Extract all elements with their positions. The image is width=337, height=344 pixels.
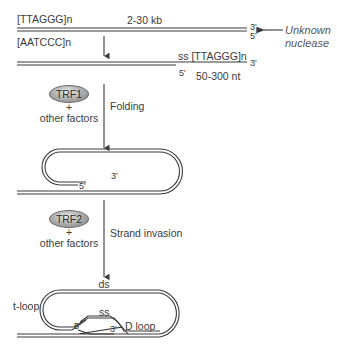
tloop-label: t-loop: [13, 300, 39, 312]
strand-invasion-label: Strand invasion: [110, 227, 182, 239]
ds-label: ds: [98, 278, 109, 290]
tloop-end-3: 3': [110, 323, 117, 335]
trf1-cofactors: other factors: [40, 112, 98, 124]
overhang-end-3: 3': [250, 57, 257, 69]
diagram-canvas: [0, 0, 337, 344]
dloop-label: D loop: [125, 320, 155, 332]
end-5-label: 5': [250, 30, 257, 42]
top-strand-label: [TTAGGG]n: [17, 13, 72, 25]
nuclease-label-line1: Unknown: [285, 24, 331, 36]
folded-end-3: 3': [111, 170, 118, 182]
ss-label: ss: [99, 306, 110, 318]
folded-loop-inner: [17, 149, 182, 194]
overhang-end-5: 5': [179, 67, 186, 79]
overhang-label: ss [TTAGGG]n: [178, 50, 247, 62]
bottom-strand-label: [AATCCC]n: [17, 36, 71, 48]
folded-loop-outer: [17, 152, 180, 191]
overhang-length-label: 50-300 nt: [196, 70, 240, 82]
folded-end-5: 5': [79, 180, 86, 192]
nuclease-label-line2: nuclease: [285, 37, 329, 49]
folding-label: Folding: [110, 100, 144, 112]
trf2-cofactors: other factors: [40, 237, 98, 249]
tloop-end-5: 5': [74, 320, 81, 332]
folded-3-end: [17, 155, 177, 188]
length-label: 2-30 kb: [127, 14, 162, 26]
